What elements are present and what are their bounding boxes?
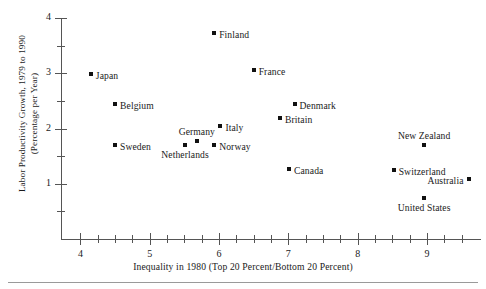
x-tick-major	[80, 233, 81, 245]
y-axis-title-line2: (Percentage per Year)	[29, 0, 41, 229]
y-tick-label: 2	[35, 122, 51, 133]
data-point-label: New Zealand	[398, 130, 451, 141]
data-point-marker	[287, 167, 291, 171]
y-tick-minor	[57, 156, 65, 157]
y-tick-minor	[57, 46, 65, 47]
data-point-marker	[278, 116, 282, 120]
y-tick-label: 1	[35, 177, 51, 188]
data-point-marker	[422, 196, 426, 200]
data-point-label: Norway	[219, 141, 251, 152]
y-tick-major	[55, 18, 67, 19]
y-tick-label: 3	[35, 66, 51, 77]
x-tick-minor	[392, 235, 393, 243]
x-tick-minor	[340, 235, 341, 243]
data-point-marker	[252, 68, 256, 72]
y-tick-minor	[57, 101, 65, 102]
data-point-label: Britain	[285, 114, 312, 125]
data-point-marker	[293, 102, 297, 106]
x-tick-minor	[306, 235, 307, 243]
data-point-label: Italy	[225, 122, 243, 133]
x-tick-minor	[254, 235, 255, 243]
data-point-marker	[195, 139, 199, 143]
data-point-marker	[392, 168, 396, 172]
x-tick-major	[358, 233, 359, 245]
data-point-label: Japan	[96, 69, 118, 80]
x-tick-label: 7	[278, 248, 298, 259]
x-tick-minor	[271, 235, 272, 243]
footer-rule	[8, 282, 478, 283]
x-tick-minor	[202, 235, 203, 243]
x-tick-minor	[115, 235, 116, 243]
y-axis-title: Labor Productivity Growth, 1979 to 1990 …	[17, 0, 40, 229]
y-tick-major	[55, 129, 67, 130]
data-point-label: Belgium	[120, 100, 154, 111]
data-point-label: Germany	[179, 126, 215, 137]
x-tick-major	[427, 233, 428, 245]
x-tick-major	[288, 233, 289, 245]
data-point-marker	[89, 72, 93, 76]
data-point-marker	[218, 124, 222, 128]
x-axis-title: Inequality in 1980 (Top 20 Percent/Botto…	[0, 261, 486, 272]
data-point-marker	[113, 102, 117, 106]
x-tick-minor	[184, 235, 185, 243]
x-tick-minor	[167, 235, 168, 243]
x-tick-minor	[132, 235, 133, 243]
data-point-marker	[113, 143, 117, 147]
y-tick-label: 4	[35, 11, 51, 22]
y-axis-title-line1: Labor Productivity Growth, 1979 to 1990	[17, 0, 29, 229]
x-tick-minor	[323, 235, 324, 243]
y-tick-major	[55, 73, 67, 74]
x-tick-label: 4	[70, 248, 90, 259]
data-point-marker	[422, 143, 426, 147]
data-point-marker	[467, 177, 471, 181]
x-tick-label: 8	[348, 248, 368, 259]
data-point-marker	[183, 143, 187, 147]
x-tick-label: 6	[209, 248, 229, 259]
x-tick-minor	[236, 235, 237, 243]
scatter-chart: Labor Productivity Growth, 1979 to 1990 …	[0, 0, 486, 289]
data-point-label: France	[259, 66, 286, 77]
data-point-label: Sweden	[120, 141, 151, 152]
y-tick-minor	[57, 211, 65, 212]
x-tick-minor	[375, 235, 376, 243]
x-tick-label: 5	[140, 248, 160, 259]
data-point-label: Australia	[427, 175, 463, 186]
x-tick-major	[219, 233, 220, 245]
x-tick-minor	[462, 235, 463, 243]
data-point-marker	[212, 143, 216, 147]
data-point-label: Finland	[219, 29, 249, 40]
data-point-label: United States	[398, 202, 451, 213]
data-point-marker	[212, 31, 216, 35]
x-tick-label: 9	[417, 248, 437, 259]
data-point-label: Canada	[294, 164, 323, 175]
x-tick-minor	[410, 235, 411, 243]
y-tick-major	[55, 184, 67, 185]
x-tick-minor	[444, 235, 445, 243]
x-tick-minor	[98, 235, 99, 243]
data-point-label: Netherlands	[161, 149, 208, 160]
x-tick-major	[150, 233, 151, 245]
data-point-label: Denmark	[300, 100, 336, 111]
